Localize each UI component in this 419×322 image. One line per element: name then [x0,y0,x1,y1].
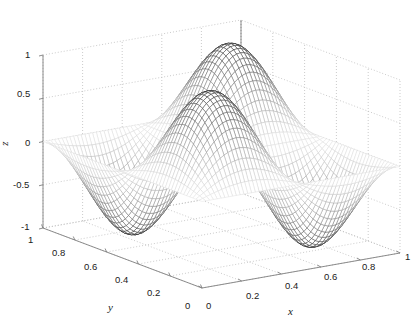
surface-mesh [43,43,400,247]
z-tick-label: 0 [25,138,30,148]
z-tick-label: -0.5 [13,180,29,190]
z-tick-label: 0.5 [17,89,30,99]
x-axis-title: x [288,306,293,317]
y-tick-label: 0.2 [147,288,160,298]
x-tick-label: 0.6 [324,272,337,282]
y-tick-label: 0 [185,301,190,311]
x-tick-label: 0.2 [246,291,259,301]
x-tick-label: 0.4 [285,281,298,291]
x-tick-label: 0 [206,301,211,311]
figure-3d-surface-plot: 1 0.5 0 -0.5 -1 z 1 0.8 0.6 0.4 0.2 0 y … [0,0,419,322]
z-tick-label: -1 [21,222,29,232]
y-tick-label: 0.4 [115,275,128,285]
y-tick-label: 0.8 [52,248,65,258]
y-tick-label: 0.6 [84,262,97,272]
x-tick-label: 1 [405,252,410,262]
z-tick-label: 1 [25,50,30,60]
plot-canvas [0,0,419,322]
y-tick-label: 1 [28,235,33,245]
y-axis-title: y [108,302,113,313]
x-tick-label: 0.8 [362,262,375,272]
z-axis-title: z [0,141,10,145]
